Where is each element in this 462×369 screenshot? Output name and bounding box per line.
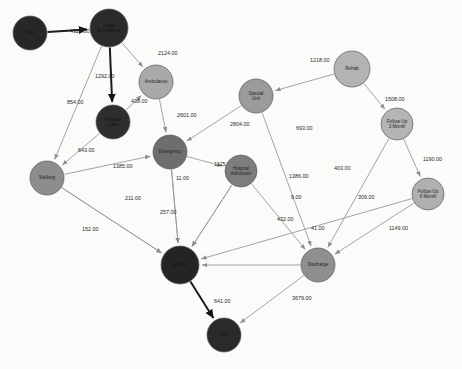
edge-weight-label: 3679.00 — [292, 295, 312, 301]
edge-weight-label: 309.00 — [358, 194, 375, 200]
node-label: 3 Month — [389, 124, 406, 129]
graph-node-hospital_adm[interactable]: HospitalAdmission — [225, 155, 257, 187]
graph-node-ambulance[interactable]: Ambulance — [139, 65, 173, 99]
node-label: Rehab — [345, 66, 359, 71]
graph-edge — [122, 43, 143, 67]
graph-edge — [64, 156, 150, 174]
edge-weight-label: 403.00 — [334, 165, 351, 171]
node-label: Discharge — [308, 262, 329, 267]
graph-canvas: 4326.002124.001292.00854.00438.00643.002… — [0, 0, 462, 369]
edge-weight-label: 152.00 — [82, 226, 99, 232]
node-label: Emergency — [158, 149, 182, 154]
graph-node-special_unit[interactable]: SpecialUnit — [239, 79, 273, 113]
edge-weight-label: 1149.00 — [389, 225, 408, 231]
edge-weight-label: 257.00 — [160, 209, 177, 215]
graph-edge — [62, 188, 162, 253]
node-label: Emergency — [97, 28, 121, 33]
graph-node-emergency[interactable]: Emergency — [153, 135, 187, 169]
edge-weight-label: 41.00 — [311, 225, 325, 231]
edge-weight-label: 432.00 — [277, 216, 294, 222]
edge-weight-label: 854.00 — [67, 99, 84, 105]
edge-weight-label: 1385.00 — [113, 163, 133, 169]
graph-node-follow3[interactable]: Follow Up3 Month — [381, 108, 413, 140]
graph-node-discharge[interactable]: Discharge — [301, 248, 335, 282]
edge-weight-label: 2601.00 — [177, 112, 197, 118]
edge-weight-label: 1190.00 — [423, 156, 442, 162]
edge-weight-label: 1218.00 — [310, 57, 330, 63]
graph-node-primary_care[interactable]: PrimaryCare — [96, 105, 130, 139]
network-graph[interactable]: 4326.002124.001292.00854.00438.00643.002… — [0, 0, 462, 369]
edge-weight-label: 1292.00 — [95, 73, 115, 79]
edge-weight-label: 9.00 — [291, 194, 302, 200]
edge-weight-label: 1386.00 — [289, 173, 309, 179]
node-label: Unit — [252, 96, 261, 101]
graph-node-triage[interactable]: TriageEmergency — [90, 9, 128, 47]
edge-weight-label: 641.00 — [214, 298, 231, 304]
node-label: Exitus — [174, 262, 187, 267]
node-label: Admission — [230, 171, 252, 176]
graph-edge — [192, 185, 232, 247]
edge-weight-label: 11.00 — [176, 175, 189, 181]
node-label: End — [220, 332, 229, 337]
edge-weight-label: 1508.00 — [385, 96, 405, 102]
graph-node-start[interactable]: Start — [13, 16, 47, 50]
graph-edge — [328, 138, 389, 247]
graph-node-exitus[interactable]: Exitus — [161, 246, 199, 284]
graph-node-walking[interactable]: Walking — [30, 161, 64, 195]
edge-weight-label: 2124.00 — [158, 50, 178, 56]
node-label: Ambulance — [145, 79, 168, 84]
graph-edge — [364, 83, 385, 109]
edge-weight-label: 693.00 — [296, 125, 313, 131]
graph-edge — [275, 74, 334, 91]
graph-edge — [159, 99, 166, 132]
graph-node-end[interactable]: End — [207, 318, 241, 352]
node-label: Start — [25, 30, 35, 35]
graph-edge — [404, 139, 421, 177]
edge-weight-label: 211.00 — [125, 195, 141, 201]
edge-weight-label: 2804.00 — [230, 121, 250, 127]
graph-edge — [201, 199, 412, 259]
edge-weight-label: 4326.00 — [70, 28, 90, 34]
node-label: Walking — [39, 175, 56, 180]
edge-weight-label: 643.00 — [78, 147, 95, 153]
node-label: Care — [108, 122, 118, 127]
graph-edge — [190, 282, 213, 319]
edge-weight-label: 438.00 — [131, 98, 148, 104]
graph-node-follow6[interactable]: Follow Up6 Month — [412, 178, 444, 210]
node-label: 6 Month — [420, 194, 437, 199]
graph-node-rehab[interactable]: Rehab — [334, 51, 370, 87]
